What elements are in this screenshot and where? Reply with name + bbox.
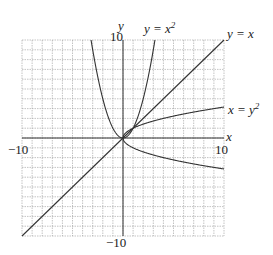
x-max-tick-label: 10 <box>215 142 228 157</box>
x-axis-label: x <box>225 129 232 144</box>
y-min-tick-label: −10 <box>106 235 126 250</box>
line-label: y = x <box>225 26 254 41</box>
sideways-parabola-label: x = y2 <box>227 101 260 117</box>
x-min-tick-label: −10 <box>8 142 28 157</box>
parabola-label: y = x2 <box>142 20 176 36</box>
graph: −10 10 10 −10 x y y = x2 y = x x = y2 <box>0 0 273 255</box>
y-axis-label: y <box>116 18 124 33</box>
